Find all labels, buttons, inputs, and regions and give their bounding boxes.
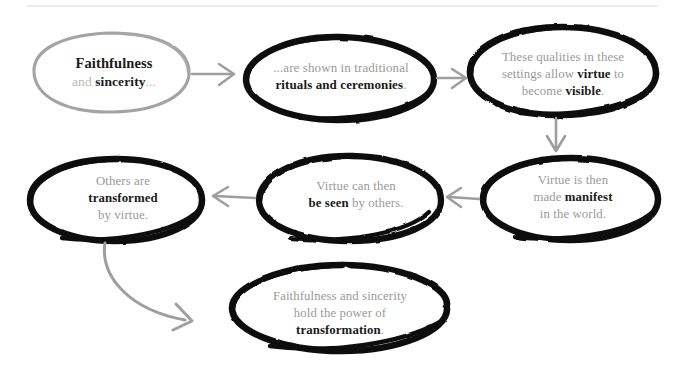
node7-line1: Faithfulness and sincerity	[250, 288, 430, 305]
arrow-node2-to-node3	[437, 69, 466, 88]
node3-line3: become visible.	[478, 83, 648, 100]
node-text-node6: Others are transformed by virtue.	[48, 173, 198, 224]
node-text-node5: Virtue can then be seen by others.	[276, 178, 436, 212]
node4-line2: made manifest	[498, 189, 648, 206]
node-text-node4: Virtue is then made manifest in the worl…	[498, 172, 648, 223]
node5-line2: be seen by others.	[276, 195, 436, 212]
arrow-node6-to-node7	[104, 243, 192, 330]
node1-line1: Faithfulness	[34, 54, 194, 73]
diagram-canvas: Faithfulness and sincerity... ...are sho…	[0, 0, 683, 392]
node6-line3: by virtue.	[48, 207, 198, 224]
node7-line2: hold the power of	[250, 305, 430, 322]
node-text-node3: These qualities in these settings allow …	[478, 49, 648, 100]
node2-line2: rituals and ceremonies.	[252, 76, 430, 93]
node5-line1: Virtue can then	[276, 178, 436, 195]
arrow-node5-to-node6	[213, 187, 255, 206]
arrow-node1-to-node2	[192, 64, 234, 85]
node6-line2: transformed	[48, 190, 198, 207]
node-text-node1: Faithfulness and sincerity...	[34, 54, 194, 91]
node3-line1: These qualities in these	[478, 49, 648, 66]
node3-line2: settings allow virtue to	[478, 66, 648, 83]
arrow-node3-to-node4	[547, 118, 565, 151]
node6-line1: Others are	[48, 173, 198, 190]
node2-line1: ...are shown in traditional	[252, 59, 430, 76]
node7-line3: transformation.	[250, 322, 430, 339]
node4-line3: in the world.	[498, 206, 648, 223]
node1-line2: and sincerity...	[34, 73, 194, 91]
node4-line1: Virtue is then	[498, 172, 648, 189]
node-text-node2: ...are shown in traditional rituals and …	[252, 59, 430, 93]
arrow-node4-to-node5	[447, 188, 479, 207]
node-text-node7: Faithfulness and sincerity hold the powe…	[250, 288, 430, 339]
